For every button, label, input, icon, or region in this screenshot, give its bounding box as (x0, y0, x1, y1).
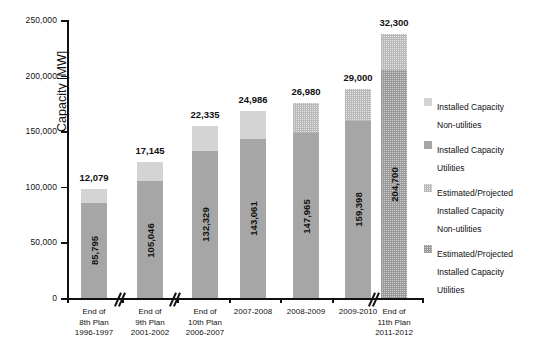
category-label-line: 2006-2007 (186, 328, 224, 339)
bar-value-label-non-utilities: 12,079 (79, 172, 108, 183)
bar-segment-non-utilities (137, 162, 163, 181)
legend-swatch-icon (424, 184, 432, 192)
y-tick (61, 76, 67, 78)
category-label-6: 2009-2010 (339, 307, 377, 318)
category-label-line: 2009-2010 (339, 307, 377, 318)
legend-item-label: Estimated/Projected Installed Capacity U… (437, 249, 513, 295)
bar-value-label-utilities: 204,700 (389, 168, 400, 202)
capacity-bar-chart: Capacity [MW] 85,79512,079105,04617,1451… (0, 0, 535, 352)
y-tick-label: 200,000 (0, 71, 57, 81)
legend-item-1: Installed Capacity Non-utilities (424, 96, 534, 132)
bar-6: 159,398 (345, 89, 371, 298)
bar-value-label-utilities: 132,329 (200, 208, 211, 242)
legend-item-4: Estimated/Projected Installed Capacity U… (424, 243, 534, 297)
bar-value-label-utilities: 105,046 (145, 223, 156, 257)
bar-1: 85,795 (81, 189, 107, 298)
x-tick (229, 298, 231, 303)
category-label-line: End of (375, 307, 413, 318)
category-label-3: End of10th Plan2006-2007 (186, 307, 224, 339)
bar-4: 143,061 (240, 111, 266, 298)
plot-area: 85,79512,079105,04617,145132,32922,33514… (67, 20, 422, 298)
bar-segment-non-utilities (240, 111, 266, 139)
axis-break-mark (114, 292, 123, 307)
y-tick-label: 50,000 (0, 237, 57, 247)
y-tick-label: 250,000 (0, 15, 57, 25)
bar-value-label-utilities: 143,061 (248, 202, 259, 236)
bar-segment-non-utilities (293, 103, 319, 133)
legend-swatch-icon (424, 98, 432, 106)
bar-7: 204,700 (381, 34, 407, 298)
bar-value-label-utilities: 85,795 (89, 236, 100, 265)
bar-value-label-non-utilities: 29,000 (343, 72, 372, 83)
bar-segment-non-utilities (192, 126, 218, 151)
bar-segment-non-utilities (381, 34, 407, 70)
category-label-line: 2008-2009 (287, 307, 325, 318)
category-label-1: End of8th Plan1996-1997 (75, 307, 113, 339)
bar-value-label-non-utilities: 17,145 (135, 145, 164, 156)
category-label-line: End of (186, 307, 224, 318)
legend-item-2: Installed Capacity Utilities (424, 139, 534, 175)
legend-item-label: Estimated/Projected Installed Capacity N… (437, 188, 513, 234)
category-label-line: 2011-2012 (375, 328, 413, 339)
category-label-line: 2001-2002 (131, 328, 169, 339)
axis-break-mark (368, 292, 377, 307)
category-label-line: 10th Plan (186, 318, 224, 329)
bar-2: 105,046 (137, 162, 163, 298)
y-tick (61, 131, 67, 133)
bar-value-label-non-utilities: 32,300 (379, 17, 408, 28)
bar-value-label-utilities: 159,398 (353, 193, 364, 227)
category-label-line: 1996-1997 (75, 328, 113, 339)
legend-swatch-icon (424, 141, 432, 149)
legend-item-3: Estimated/Projected Installed Capacity N… (424, 182, 534, 236)
category-label-line: End of (131, 307, 169, 318)
category-label-line: 8th Plan (75, 318, 113, 329)
bar-5: 147,965 (293, 103, 319, 298)
y-tick (61, 187, 67, 189)
y-tick-label: 100,000 (0, 182, 57, 192)
y-tick-label: 150,000 (0, 126, 57, 136)
legend-swatch-icon (424, 245, 432, 253)
y-tick (61, 242, 67, 244)
bar-value-label-non-utilities: 24,986 (238, 94, 267, 105)
x-tick (67, 298, 69, 303)
legend-item-label: Installed Capacity Utilities (437, 145, 504, 173)
legend: Installed Capacity Non-utilitiesInstalle… (424, 96, 534, 304)
bar-value-label-non-utilities: 26,980 (291, 86, 320, 97)
category-label-line: 11th Plan (375, 318, 413, 329)
axis-break-mark (169, 292, 178, 307)
bar-value-label-non-utilities: 22,335 (190, 109, 219, 120)
category-label-4: 2007-2008 (234, 307, 272, 318)
y-tick-label: 0 (0, 293, 57, 303)
y-tick (61, 20, 67, 22)
bar-segment-non-utilities (345, 89, 371, 121)
category-label-line: 9th Plan (131, 318, 169, 329)
x-tick (280, 298, 282, 303)
legend-item-label: Installed Capacity Non-utilities (437, 102, 504, 130)
category-label-7: End of11th Plan2011-2012 (375, 307, 413, 339)
bar-value-label-utilities: 147,965 (301, 199, 312, 233)
bar-3: 132,329 (192, 126, 218, 298)
category-label-line: 2007-2008 (234, 307, 272, 318)
x-tick (332, 298, 334, 303)
category-label-2: End of9th Plan2001-2002 (131, 307, 169, 339)
category-label-line: End of (75, 307, 113, 318)
category-label-5: 2008-2009 (287, 307, 325, 318)
bar-segment-non-utilities (81, 189, 107, 202)
